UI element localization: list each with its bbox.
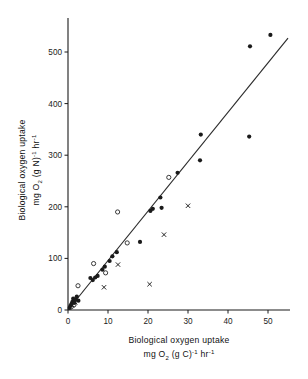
data-point-filled — [110, 254, 114, 258]
y-tick-label: 300 — [48, 151, 62, 160]
x-tick-label: 40 — [223, 317, 233, 326]
x-axis-label-line2: mg O2 (g C)-1 hr-1 — [143, 349, 214, 361]
y-tick-label: 500 — [48, 48, 62, 57]
y-tick-label: 200 — [48, 203, 62, 212]
x-axis-label-line1: Biological oxygen uptake — [128, 335, 229, 345]
data-point-filled — [248, 44, 252, 48]
y-axis-label-line2: mg O2 (g N)-1 hr-1 — [31, 134, 43, 205]
figure-background — [0, 0, 308, 379]
x-label-sup-2: -1 — [209, 349, 215, 355]
data-point-filled — [115, 250, 119, 254]
data-point-filled — [247, 135, 251, 139]
data-point-filled — [96, 274, 100, 278]
y-tick-label: 0 — [57, 306, 62, 315]
x-tick-label: 10 — [103, 317, 113, 326]
scatter-plot-figure: 0100200300400500 01020304050 Biological … — [0, 0, 308, 379]
x-tick-label: 30 — [183, 317, 193, 326]
data-point-filled — [268, 33, 272, 37]
x-label-unit-gc: (g C) — [169, 349, 192, 359]
y-label-sup-2: -1 — [31, 134, 37, 140]
y-label-unit-gn: (g N) — [31, 157, 41, 180]
data-point-filled — [103, 265, 107, 269]
y-axis-label-line1: Biological oxygen uptake — [17, 119, 27, 220]
x-tick-label: 0 — [66, 317, 71, 326]
data-point-filled — [108, 259, 112, 263]
data-point-filled — [138, 240, 142, 244]
y-tick-label: 400 — [48, 100, 62, 109]
data-point-filled — [176, 171, 180, 175]
data-point-filled — [199, 132, 203, 136]
data-point-filled — [75, 294, 79, 298]
x-tick-label: 50 — [263, 317, 273, 326]
x-label-mgo: mg O — [143, 349, 165, 359]
y-label-mgo: mg O — [31, 183, 41, 205]
x-tick-label: 20 — [143, 317, 153, 326]
y-tick-label: 100 — [48, 254, 62, 263]
data-point-filled — [158, 195, 162, 199]
data-point-filled — [160, 206, 164, 210]
plot-canvas: 0100200300400500 01020304050 Biological … — [0, 0, 308, 379]
data-point-filled — [151, 207, 155, 211]
data-point-filled — [198, 158, 202, 162]
y-label-hr: hr — [31, 140, 41, 151]
x-label-hr: hr — [198, 349, 209, 359]
